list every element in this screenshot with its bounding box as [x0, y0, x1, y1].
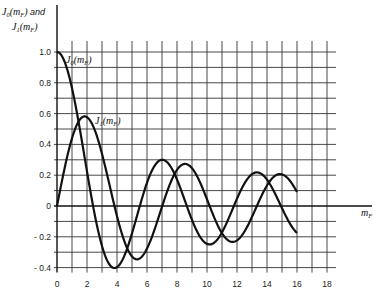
grid: [54, 41, 336, 273]
y-tick-label: 1.0: [39, 47, 51, 57]
y-axis-title-line2: J1(mF): [12, 21, 38, 33]
j0-label: J0(mF): [66, 54, 92, 66]
x-tick-label: 14: [262, 279, 272, 289]
x-tick-label: 12: [232, 279, 242, 289]
y-tick-label: - 0.2: [34, 232, 51, 242]
j1-label: J1(mF): [95, 115, 121, 127]
y-tick-label: 0.6: [39, 109, 51, 119]
y-tick-label: - 0.4: [34, 263, 51, 273]
x-tick-label: 18: [322, 279, 332, 289]
x-axis-title: mF: [361, 207, 373, 219]
y-tick-label: 0.2: [39, 170, 51, 180]
x-tick-label: 6: [145, 279, 150, 289]
bessel-chart: 1.00.80.60.40.20- 0.2- 0.4 0246810121416…: [0, 0, 382, 302]
y-tick-label: 0.4: [39, 139, 51, 149]
x-tick-labels: 024681012141618: [55, 279, 332, 289]
x-tick-label: 4: [115, 279, 120, 289]
x-tick-label: 16: [292, 279, 302, 289]
x-tick-label: 0: [55, 279, 60, 289]
x-tick-label: 8: [175, 279, 180, 289]
y-tick-label: 0.8: [39, 78, 51, 88]
y-axis-title-line1: J0(mF) and: [2, 6, 46, 18]
y-tick-labels: 1.00.80.60.40.20- 0.2- 0.4: [34, 47, 51, 273]
x-tick-label: 2: [85, 279, 90, 289]
x-tick-label: 10: [202, 279, 212, 289]
y-tick-label: 0: [46, 201, 51, 211]
